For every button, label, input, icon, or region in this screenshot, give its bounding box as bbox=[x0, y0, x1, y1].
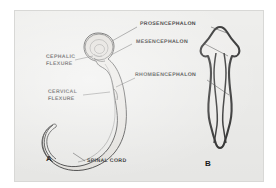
label-cephalic-flexure-line2: FLEXURE bbox=[46, 61, 73, 67]
leader-prosencephalon-left bbox=[112, 27, 137, 41]
embryonic-brain-figure: PROSENCEPHALON MESENCEPHALON RHOMBENCEPH… bbox=[0, 0, 276, 188]
label-cervical-flexure-line1: CERVICAL bbox=[48, 89, 77, 95]
leader-spinal-cord bbox=[73, 153, 85, 161]
label-cephalic-flexure-line1: CEPHALIC bbox=[46, 54, 75, 60]
panel-b-brain-outline bbox=[201, 27, 240, 148]
label-spinal-cord: SPINAL CORD bbox=[87, 158, 127, 164]
panel-b-drawing bbox=[201, 27, 240, 148]
panel-a-spinal-cord-tip bbox=[54, 124, 56, 127]
label-mesencephalon: MESENCEPHALON bbox=[136, 39, 188, 45]
label-prosencephalon: PROSENCEPHALON bbox=[140, 21, 196, 27]
label-cervical-flexure-line2: FLEXURE bbox=[48, 96, 75, 102]
panel-letter-b: B bbox=[205, 159, 211, 168]
panel-a-head-vesicle bbox=[85, 34, 113, 60]
figure-plate: PROSENCEPHALON MESENCEPHALON RHOMBENCEPH… bbox=[14, 10, 264, 182]
leader-cervical-flexure bbox=[83, 92, 110, 95]
panel-letter-a: A bbox=[46, 154, 52, 163]
label-rhombencephalon: RHOMBENCEPHALON bbox=[135, 72, 196, 78]
